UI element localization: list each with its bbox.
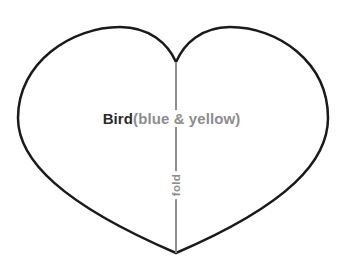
piece-label: Bird(blue & yellow) xyxy=(0,108,343,130)
pattern-canvas: Bird(blue & yellow) fold xyxy=(0,0,343,265)
heart-pattern-svg xyxy=(0,0,343,265)
heart-outline-path xyxy=(18,27,328,253)
fold-label: fold xyxy=(169,171,184,199)
piece-color-note-text: (blue & yellow) xyxy=(133,110,240,127)
piece-name-text: Bird xyxy=(103,110,133,127)
